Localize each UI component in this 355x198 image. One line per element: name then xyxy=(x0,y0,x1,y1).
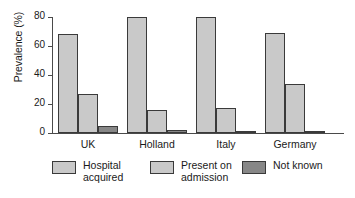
bar xyxy=(147,110,167,133)
y-tick-label: 80 xyxy=(34,10,45,21)
bar xyxy=(265,33,285,133)
legend-swatch xyxy=(52,161,76,174)
y-tick-label: 0 xyxy=(39,126,45,137)
bar xyxy=(127,17,147,133)
y-tick-label: 40 xyxy=(34,68,45,79)
bar xyxy=(78,94,98,133)
x-axis-label: UK xyxy=(58,138,118,150)
bar xyxy=(216,108,236,133)
y-tick-60: 60 xyxy=(48,46,52,47)
legend-item: Hospital acquired xyxy=(52,160,123,183)
bar-group: Holland xyxy=(127,17,187,133)
x-axis-line xyxy=(52,133,344,134)
bar xyxy=(236,131,256,133)
legend-label: Not known xyxy=(273,160,323,172)
chart-legend: Hospital acquiredPresent on admissionNot… xyxy=(0,160,355,198)
bar xyxy=(285,84,305,133)
y-axis-line xyxy=(52,17,53,134)
bar xyxy=(98,126,118,133)
legend-swatch xyxy=(150,161,174,174)
bar xyxy=(305,131,325,133)
x-axis-label: Italy xyxy=(196,138,256,150)
y-tick-40: 40 xyxy=(48,75,52,76)
y-tick-0: 0 xyxy=(48,133,52,134)
y-tick-20: 20 xyxy=(48,104,52,105)
y-tick-80: 80 xyxy=(48,17,52,18)
bar-group: UK xyxy=(58,17,118,133)
legend-item: Not known xyxy=(242,160,323,174)
y-tick-label: 60 xyxy=(34,39,45,50)
x-axis-label: Germany xyxy=(265,138,325,150)
y-axis-title: Prevalence (%) xyxy=(12,0,24,112)
legend-item: Present on admission xyxy=(150,160,232,183)
bar xyxy=(167,130,187,133)
legend-swatch xyxy=(242,161,266,174)
x-axis-label: Holland xyxy=(127,138,187,150)
bar-chart: Prevalence (%) 020406080 UKHollandItalyG… xyxy=(0,0,355,198)
y-tick-label: 20 xyxy=(34,97,45,108)
bar xyxy=(58,34,78,133)
legend-label: Hospital acquired xyxy=(83,160,123,183)
bar-group: Italy xyxy=(196,17,256,133)
plot-area: 020406080 UKHollandItalyGermany xyxy=(52,17,344,134)
legend-label: Present on admission xyxy=(181,160,232,183)
bar xyxy=(196,17,216,133)
bar-group: Germany xyxy=(265,17,325,133)
